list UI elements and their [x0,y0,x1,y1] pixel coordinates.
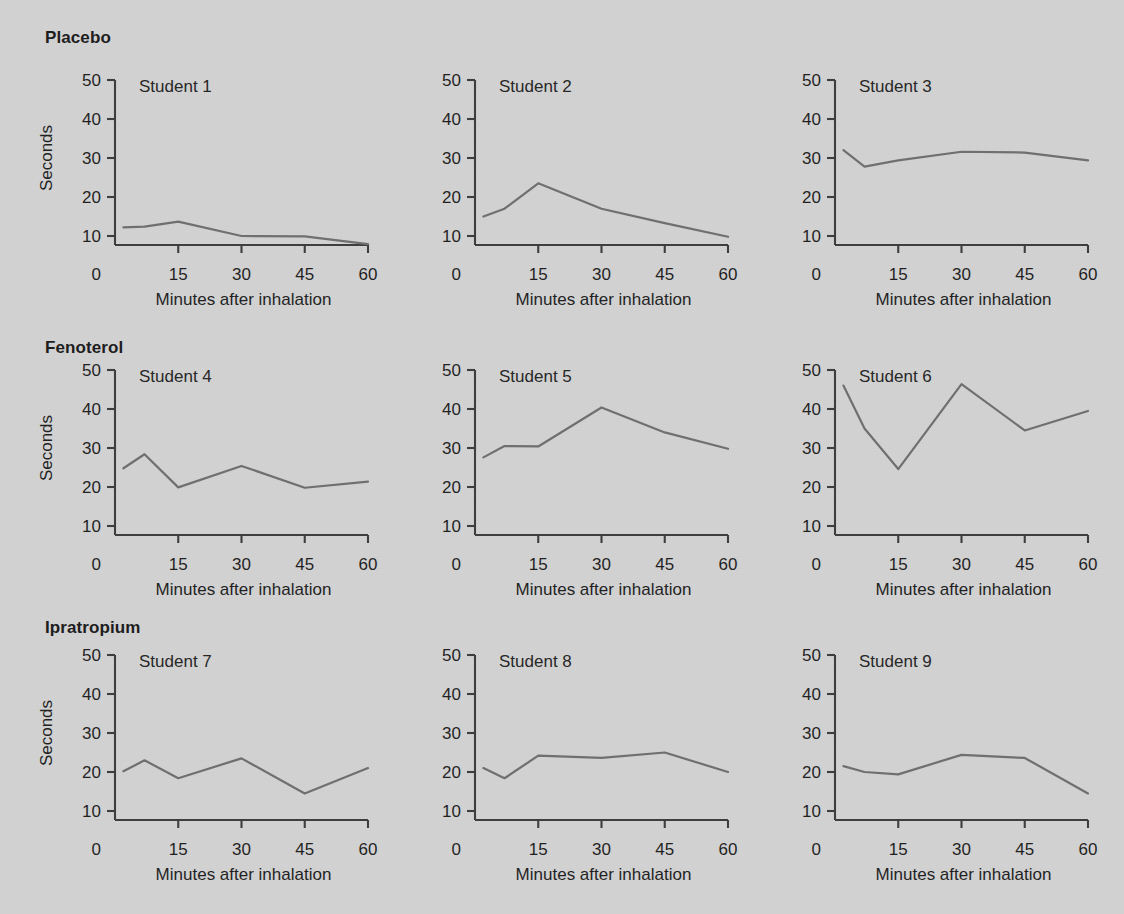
y-tick-label: 50 [802,646,821,665]
x-axis-zero-label: 0 [92,265,101,284]
y-tick-label: 40 [82,110,101,129]
y-tick-label: 10 [802,227,821,246]
x-axis-title: Minutes after inhalation [876,865,1052,883]
y-tick-label: 50 [442,71,461,90]
y-tick-label: 30 [442,724,461,743]
panel-student-9: Student 95040302010015304560Minutes afte… [742,633,1102,883]
data-line [483,183,728,236]
x-tick-label: 15 [529,555,548,574]
x-tick-label: 45 [1015,555,1034,574]
x-tick-label: 30 [592,555,611,574]
x-axis-zero-label: 0 [452,555,461,574]
y-axis-title: Seconds [37,125,56,191]
data-line [843,384,1088,469]
panel-title: Student 5 [499,367,572,386]
data-line [483,407,728,457]
y-tick-label: 30 [82,439,101,458]
panel-student-4: Student 45040302010015304560Minutes afte… [22,348,382,598]
data-line [123,222,368,245]
x-tick-label: 15 [529,840,548,859]
panel-student-2: Student 25040302010015304560Minutes afte… [382,58,742,308]
x-axis-title: Minutes after inhalation [156,580,332,598]
panel-student-7: Student 75040302010015304560Minutes afte… [22,633,382,883]
y-tick-label: 10 [442,227,461,246]
data-line [483,753,728,779]
y-tick-label: 10 [802,517,821,536]
panel-title: Student 7 [139,652,212,671]
panel-title: Student 6 [859,367,932,386]
y-tick-label: 50 [82,71,101,90]
x-tick-label: 30 [952,555,971,574]
y-tick-label: 30 [442,149,461,168]
x-tick-label: 60 [1079,555,1098,574]
y-tick-label: 40 [82,685,101,704]
y-tick-label: 10 [442,802,461,821]
y-tick-label: 50 [802,71,821,90]
panel-title: Student 2 [499,77,572,96]
y-tick-label: 50 [802,361,821,380]
x-tick-label: 60 [359,840,378,859]
y-tick-label: 30 [802,724,821,743]
x-axis-zero-label: 0 [92,555,101,574]
x-tick-label: 15 [889,265,908,284]
y-tick-label: 50 [442,646,461,665]
x-axis-zero-label: 0 [812,840,821,859]
x-tick-label: 60 [1079,265,1098,284]
panel-title: Student 8 [499,652,572,671]
y-tick-label: 10 [802,802,821,821]
panel-student-5: Student 55040302010015304560Minutes afte… [382,348,742,598]
y-tick-label: 50 [82,361,101,380]
x-tick-label: 60 [1079,840,1098,859]
x-tick-label: 60 [719,265,738,284]
x-axis-zero-label: 0 [452,265,461,284]
y-tick-label: 30 [82,724,101,743]
y-tick-label: 10 [82,517,101,536]
x-tick-label: 60 [719,555,738,574]
x-axis-title: Minutes after inhalation [876,290,1052,308]
panel-title: Student 9 [859,652,932,671]
x-axis-title: Minutes after inhalation [156,290,332,308]
panel-student-1: Student 15040302010015304560Minutes afte… [22,58,382,308]
y-tick-label: 40 [802,110,821,129]
y-tick-label: 50 [82,646,101,665]
y-tick-label: 40 [442,110,461,129]
y-tick-label: 20 [442,188,461,207]
y-tick-label: 30 [802,439,821,458]
panel-student-6: Student 65040302010015304560Minutes afte… [742,348,1102,598]
y-tick-label: 40 [82,400,101,419]
y-axis-title: Seconds [37,415,56,481]
data-line [123,758,368,793]
x-tick-label: 45 [295,265,314,284]
x-tick-label: 30 [952,840,971,859]
y-tick-label: 40 [442,400,461,419]
x-tick-label: 60 [359,555,378,574]
data-line [843,755,1088,794]
y-tick-label: 20 [802,188,821,207]
x-axis-title: Minutes after inhalation [516,865,692,883]
x-axis-zero-label: 0 [92,840,101,859]
x-axis-title: Minutes after inhalation [876,580,1052,598]
y-tick-label: 20 [442,478,461,497]
y-tick-label: 20 [82,763,101,782]
data-line [123,454,368,488]
y-tick-label: 40 [802,400,821,419]
y-tick-label: 20 [802,763,821,782]
x-tick-label: 15 [169,555,188,574]
x-tick-label: 30 [232,555,251,574]
data-line [843,150,1088,166]
x-tick-label: 45 [1015,265,1034,284]
x-tick-label: 60 [359,265,378,284]
x-tick-label: 15 [169,840,188,859]
x-axis-zero-label: 0 [812,265,821,284]
x-tick-label: 45 [655,265,674,284]
panel-student-3: Student 35040302010015304560Minutes afte… [742,58,1102,308]
y-tick-label: 40 [802,685,821,704]
x-tick-label: 15 [889,555,908,574]
y-tick-label: 10 [82,802,101,821]
x-tick-label: 45 [1015,840,1034,859]
x-tick-label: 30 [232,265,251,284]
y-tick-label: 10 [442,517,461,536]
y-tick-label: 20 [802,478,821,497]
y-tick-label: 40 [442,685,461,704]
group-heading-placebo: Placebo [45,28,111,48]
